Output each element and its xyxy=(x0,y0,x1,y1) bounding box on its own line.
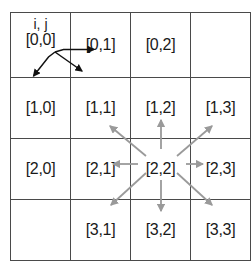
cell-label-0-0: [0,0] xyxy=(11,32,70,49)
cell-1-1: [1,1] xyxy=(71,78,131,139)
cell-3-2: [3,2] xyxy=(131,200,191,261)
cell-3-1: [3,1] xyxy=(71,200,131,261)
cell-2-2: [2,2] xyxy=(131,139,191,200)
cell-label-1-1: [1,1] xyxy=(71,100,130,117)
cell-label-3-1: [3,1] xyxy=(71,222,130,239)
cell-label-1-3: [1,3] xyxy=(191,100,250,117)
cell-label-2-2: [2,2] xyxy=(131,161,190,178)
cell-0-2: [0,2] xyxy=(131,13,191,78)
index-grid-table: i, j [0,0] [0,1] [0,2] [1,0] xyxy=(10,12,251,261)
grid-container: i, j [0,0] [0,1] [0,2] [1,0] xyxy=(10,12,246,252)
cell-2-3: [2,3] xyxy=(191,139,251,200)
cell-label-0-1: [0,1] xyxy=(71,37,130,54)
table-row: [3,1] [3,2] [3,3] xyxy=(11,200,251,261)
cell-label-3-2: [3,2] xyxy=(131,222,190,239)
cell-label-2-1: [2,1] xyxy=(71,161,130,178)
cell-1-0: [1,0] xyxy=(11,78,71,139)
table-row: i, j [0,0] [0,1] [0,2] xyxy=(11,13,251,78)
cell-label-1-0: [1,0] xyxy=(11,100,70,117)
cell-label-3-3: [3,3] xyxy=(191,222,250,239)
table-row: [1,0] [1,1] [1,2] [1,3] xyxy=(11,78,251,139)
cell-3-0 xyxy=(11,200,71,261)
table-row: [2,0] [2,1] [2,2] [2,3] xyxy=(11,139,251,200)
cell-0-0: i, j [0,0] xyxy=(11,13,71,78)
cell-label-1-2: [1,2] xyxy=(131,100,190,117)
cell-label-0-2: [0,2] xyxy=(131,37,190,54)
cell-2-0: [2,0] xyxy=(11,139,71,200)
cell-0-3 xyxy=(191,13,251,78)
cell-0-1: [0,1] xyxy=(71,13,131,78)
cell-1-3: [1,3] xyxy=(191,78,251,139)
grid-diagram-figure: i, j [0,0] [0,1] [0,2] [1,0] xyxy=(0,0,251,265)
cell-2-1: [2,1] xyxy=(71,139,131,200)
cell-label-2-0: [2,0] xyxy=(11,161,70,178)
axis-caption-label: i, j xyxy=(11,17,70,31)
cell-1-2: [1,2] xyxy=(131,78,191,139)
cell-3-3: [3,3] xyxy=(191,200,251,261)
cell-label-2-3: [2,3] xyxy=(191,161,250,178)
